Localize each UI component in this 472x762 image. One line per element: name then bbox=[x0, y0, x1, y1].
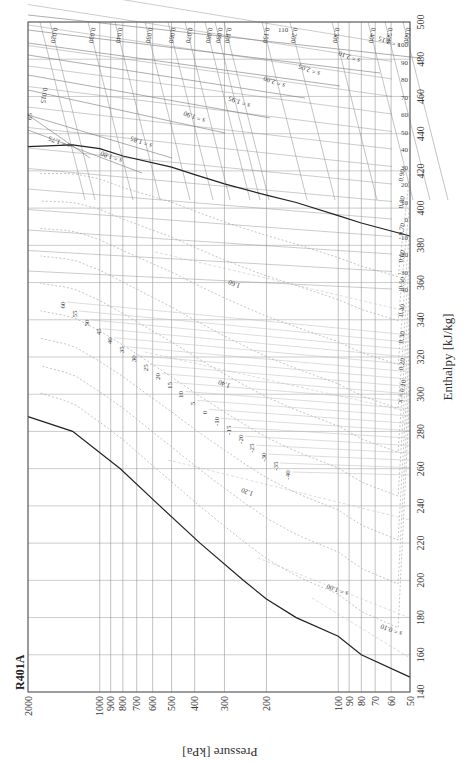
x-axis-title: Enthalpy [kJ/kg] bbox=[440, 313, 455, 400]
pressure-tick-label: 800 bbox=[117, 696, 128, 711]
enthalpy-tick-label: 160 bbox=[415, 647, 426, 662]
quality-line bbox=[40, 201, 410, 321]
isotherm-label: 0 bbox=[201, 410, 209, 414]
isochore-line bbox=[290, 22, 335, 200]
quality-line bbox=[40, 336, 410, 540]
isotherm-label: 10 bbox=[177, 390, 185, 398]
isentrope-label: 1.40 bbox=[217, 378, 232, 390]
pressure-tick-label: 50 bbox=[405, 696, 416, 706]
isochore-line bbox=[205, 22, 250, 200]
vapor-isotherm-label: 20 bbox=[401, 181, 409, 189]
isotherm-label: 30 bbox=[130, 355, 138, 363]
isotherm-label: -35 bbox=[272, 461, 280, 471]
isochore-line bbox=[115, 22, 160, 200]
isentrope-label: s = 2.00 bbox=[262, 74, 286, 89]
enthalpy-tick-label: 260 bbox=[415, 461, 426, 476]
isochore-label: 0.400 bbox=[367, 27, 378, 44]
enthalpy-tick-label: 240 bbox=[415, 498, 426, 513]
vapor-isotherm-label: -10 bbox=[399, 234, 409, 242]
vapor-isotherm-line bbox=[28, 230, 392, 254]
pressure-tick-label: 2000 bbox=[23, 696, 34, 716]
pressure-tick-label: 900 bbox=[105, 696, 116, 711]
enthalpy-tick-label: 500 bbox=[415, 15, 426, 30]
saturated-liquid-line bbox=[28, 417, 410, 677]
pressure-tick-label: 70 bbox=[370, 696, 381, 706]
enthalpy-tick-label: 420 bbox=[415, 163, 426, 178]
enthalpy-tick-label: 400 bbox=[415, 201, 426, 216]
isotherm-label: -25 bbox=[248, 443, 256, 453]
isentrope-line bbox=[28, 130, 142, 173]
pressure-tick-label: 90 bbox=[344, 696, 355, 706]
isochore-label: 0.200 bbox=[289, 27, 300, 44]
vapor-isotherm-label: -20 bbox=[399, 251, 409, 259]
vapor-isotherm-label: -40 bbox=[399, 286, 409, 294]
vapor-isotherm-label: 0 bbox=[405, 216, 409, 224]
isochore-label: 0.600 bbox=[402, 27, 413, 44]
enthalpy-tick-label: 460 bbox=[415, 89, 426, 104]
isochore-label: 0.070 bbox=[184, 27, 195, 44]
isotherm-line bbox=[268, 454, 410, 460]
isotherm-line bbox=[67, 302, 410, 335]
isentrope-label: 1.20 bbox=[240, 486, 255, 498]
isochore-extra-label: 110 bbox=[278, 26, 289, 34]
vapor-isotherm-label: 10 bbox=[401, 199, 409, 207]
isotherm-label: 20 bbox=[154, 373, 162, 381]
grid-lines bbox=[28, 22, 410, 692]
enthalpy-tick-label: 360 bbox=[415, 275, 426, 290]
pressure-tick-label: 200 bbox=[261, 696, 272, 711]
vapor-isotherm-line bbox=[28, 271, 392, 289]
isochore-label: 0.060 bbox=[167, 27, 178, 44]
vapor-isotherm-line bbox=[28, 210, 392, 237]
isotherm-label: 40 bbox=[106, 337, 114, 345]
isotherm-line bbox=[221, 418, 410, 430]
enthalpy-tick-label: 180 bbox=[415, 610, 426, 625]
vapor-isotherm-label: 90 bbox=[401, 59, 409, 67]
isotherm-label: 15 bbox=[166, 382, 174, 390]
isentrope-label: s = 1.85 bbox=[129, 134, 153, 149]
vapor-isotherm-label: 60 bbox=[401, 111, 409, 119]
pressure-tick-label: 700 bbox=[131, 696, 142, 711]
isotherm-line bbox=[114, 338, 410, 365]
isotherm-line bbox=[79, 311, 410, 342]
vapor-isotherm-line bbox=[28, 87, 392, 132]
enthalpy-tick-label: 320 bbox=[415, 350, 426, 365]
saturation-dome bbox=[28, 145, 410, 677]
isotherm-label: 50 bbox=[83, 319, 91, 327]
quality-line bbox=[40, 228, 410, 365]
chart-title: R401A bbox=[13, 654, 27, 690]
pressure-tick-label: 1000 bbox=[94, 696, 105, 716]
isochore-label: 0.015 bbox=[39, 87, 50, 104]
quality-line bbox=[40, 174, 410, 277]
isotherm-line bbox=[162, 374, 410, 394]
vapor-isotherm-label: 40 bbox=[401, 146, 409, 154]
isentrope-label: s = 1.90 bbox=[182, 109, 206, 124]
isochore-label: 0.500 bbox=[384, 27, 395, 44]
isotherm-line bbox=[138, 356, 410, 380]
isotherm-line bbox=[280, 463, 410, 468]
enthalpy-tick-label: 300 bbox=[415, 387, 426, 402]
enthalpy-tick-label: 220 bbox=[415, 536, 426, 551]
isotherm-line bbox=[292, 472, 410, 475]
pressure-tick-label: 400 bbox=[189, 696, 200, 711]
isochore-label: 0.090 bbox=[214, 27, 225, 44]
isotherm-line bbox=[209, 409, 410, 423]
isochore-line bbox=[215, 22, 260, 200]
isotherm-line bbox=[256, 445, 410, 453]
isotherm-label: 25 bbox=[142, 364, 150, 372]
quality-label: 0.20 bbox=[397, 357, 407, 371]
quality-line bbox=[40, 390, 410, 628]
vapor-isotherm-label: -30 bbox=[399, 269, 409, 277]
isochore-label: 0.030 bbox=[87, 27, 98, 44]
vapor-isotherm-line bbox=[28, 148, 392, 184]
pressure-enthalpy-chart: 1401601802002202402602803003203403603804… bbox=[0, 0, 472, 762]
isochore-label: 0.050 bbox=[144, 27, 155, 44]
isentrope-label: s = 1.00 bbox=[325, 582, 349, 597]
vapor-isotherm-line bbox=[28, 128, 392, 167]
isochore-label: 0.040 bbox=[114, 27, 125, 44]
enthalpy-tick-label: 480 bbox=[415, 52, 426, 67]
isentrope-label: s = 1.80 bbox=[99, 149, 123, 164]
enthalpy-tick-label: 440 bbox=[415, 126, 426, 141]
isochore-label: 0.080 bbox=[204, 27, 215, 44]
isotherm-label: -10 bbox=[213, 416, 221, 426]
enthalpy-tick-label: 340 bbox=[415, 312, 426, 327]
